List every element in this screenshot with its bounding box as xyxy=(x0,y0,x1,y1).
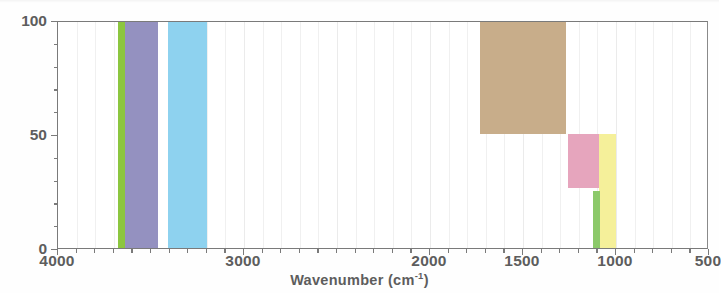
gridline xyxy=(449,22,450,248)
gridline xyxy=(616,22,617,248)
x-axis-minor-tick xyxy=(169,249,170,253)
green-band-1120 xyxy=(593,191,600,249)
y-axis-minor-tick xyxy=(54,44,58,45)
gridline xyxy=(467,22,468,248)
x-axis-minor-tick xyxy=(94,249,95,253)
gridline xyxy=(263,22,264,248)
y-axis-tick-label: 100 xyxy=(0,12,47,30)
x-axis-title-base: Wavenumber (cm xyxy=(290,272,415,288)
x-axis-minor-tick xyxy=(150,249,151,253)
x-axis-tick-label: 1000 xyxy=(597,252,632,270)
x-axis-tick-label: 3000 xyxy=(225,252,260,270)
gridline xyxy=(114,22,115,248)
x-axis-minor-tick xyxy=(317,249,318,253)
y-axis-minor-tick xyxy=(54,158,58,159)
x-axis-minor-tick xyxy=(76,249,77,253)
x-axis-minor-tick xyxy=(485,249,486,253)
gridline xyxy=(318,22,319,248)
x-axis-minor-tick xyxy=(671,249,672,253)
gridline xyxy=(672,22,673,248)
gridline xyxy=(244,22,245,248)
x-axis-minor-tick xyxy=(336,249,337,253)
gridline xyxy=(95,22,96,248)
gridline xyxy=(207,22,208,248)
x-axis-minor-tick xyxy=(466,249,467,253)
y-axis-tick-label: 50 xyxy=(0,126,47,144)
blue-band-3410 xyxy=(168,22,207,249)
gridline xyxy=(393,22,394,248)
scan-artifact-edge xyxy=(0,0,719,3)
gridline xyxy=(337,22,338,248)
gridline xyxy=(356,22,357,248)
x-axis-minor-tick xyxy=(448,249,449,253)
pink-band-1260 xyxy=(568,134,600,189)
y-axis-minor-tick xyxy=(54,226,58,227)
x-axis-tick-label: 1500 xyxy=(504,252,539,270)
x-axis-minor-tick xyxy=(689,249,690,253)
x-axis-tick-label: 500 xyxy=(695,252,721,270)
x-axis-title-close: ) xyxy=(424,272,429,288)
gridline xyxy=(225,22,226,248)
x-axis-minor-tick xyxy=(262,249,263,253)
yellow-band-1090 xyxy=(599,134,616,249)
purple-band-3640 xyxy=(125,22,158,249)
x-axis-minor-tick xyxy=(541,249,542,253)
y-axis-minor-tick xyxy=(54,67,58,68)
x-axis-minor-tick xyxy=(634,249,635,253)
plot-area xyxy=(57,21,708,249)
y-axis-tick-label: 0 xyxy=(0,240,47,258)
y-axis-major-tick xyxy=(51,135,57,136)
gridline xyxy=(77,22,78,248)
x-axis-minor-tick xyxy=(373,249,374,253)
x-axis-tick-label: 2000 xyxy=(411,252,446,270)
x-axis-minor-tick xyxy=(113,249,114,253)
gridline xyxy=(430,22,431,248)
x-axis-minor-tick xyxy=(131,249,132,253)
x-axis-minor-tick xyxy=(187,249,188,253)
y-axis-minor-tick xyxy=(54,112,58,113)
x-axis-minor-tick xyxy=(355,249,356,253)
y-axis-minor-tick xyxy=(54,181,58,182)
x-axis-title: Wavenumber (cm-1) xyxy=(0,270,719,288)
y-axis-major-tick xyxy=(51,21,57,22)
green-band-3680 xyxy=(118,22,125,249)
x-axis-minor-tick xyxy=(578,249,579,253)
gridline xyxy=(690,22,691,248)
gridline xyxy=(635,22,636,248)
x-axis-minor-tick xyxy=(299,249,300,253)
x-axis-minor-tick xyxy=(652,249,653,253)
x-axis-minor-tick xyxy=(392,249,393,253)
gridline xyxy=(374,22,375,248)
gridline xyxy=(281,22,282,248)
x-axis-title-superscript: -1 xyxy=(415,270,424,281)
y-axis-minor-tick xyxy=(54,203,58,204)
x-axis-minor-tick xyxy=(280,249,281,253)
y-axis-minor-tick xyxy=(54,89,58,90)
tan-band-upper xyxy=(480,22,566,134)
gridline xyxy=(411,22,412,248)
x-axis-minor-tick xyxy=(206,249,207,253)
gridline xyxy=(653,22,654,248)
y-axis-major-tick xyxy=(51,249,57,250)
x-axis-minor-tick xyxy=(559,249,560,253)
gridline xyxy=(300,22,301,248)
